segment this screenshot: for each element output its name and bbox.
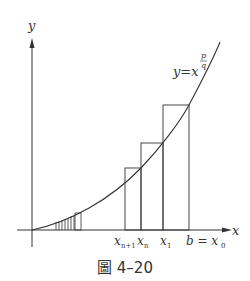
tick-x1-sub: 1 xyxy=(167,242,171,250)
tick-b-sub: 0 xyxy=(221,242,225,250)
rectangles xyxy=(125,105,189,230)
tick-xn1-sub: n+1 xyxy=(121,242,136,250)
curve-label-exp-num: p xyxy=(201,51,206,60)
figure-diagram: y x y=x p q x n+1 x n x 1 b = x 0 xyxy=(0,0,250,281)
tick-x1: x xyxy=(160,234,167,248)
tick-xn1: x xyxy=(114,234,121,248)
tick-b: b = x xyxy=(186,234,218,248)
figure-caption: 圖 4–20 xyxy=(0,256,250,277)
tick-xn: x xyxy=(137,234,144,248)
rect-xn1-xn xyxy=(125,168,141,230)
x-axis-label: x xyxy=(232,223,240,238)
curve-label-exp-den: q xyxy=(201,61,206,70)
y-axis-label: y xyxy=(27,18,36,33)
rect-x1-x0 xyxy=(163,105,189,230)
x-axis-arrow-icon xyxy=(222,228,232,233)
tick-xn-sub: n xyxy=(144,242,149,250)
curve-label: y=x xyxy=(172,64,199,79)
y-axis-arrow-icon xyxy=(30,38,35,48)
